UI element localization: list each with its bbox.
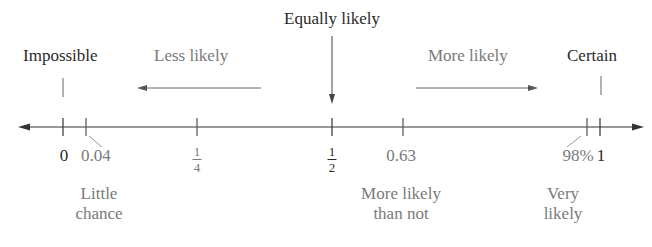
- tick-label-half: 1 2: [328, 145, 337, 174]
- more-likely-than-not-line1: More likely: [361, 184, 441, 203]
- fraction-denominator: 4: [194, 161, 201, 174]
- tick-label-quarter: 1 4: [193, 145, 202, 174]
- very-likely-line1: Very: [547, 184, 579, 203]
- impossible-label: Impossible: [23, 46, 98, 65]
- less-likely-label: Less likely: [154, 46, 228, 65]
- fraction-numerator: 1: [194, 145, 201, 158]
- left-arrow-icon: [137, 85, 147, 91]
- right-arrow-icon: [528, 85, 538, 91]
- tick-label-0.04: 0.04: [81, 146, 111, 165]
- little-chance-line1: Little: [81, 184, 118, 203]
- fraction-denominator: 2: [329, 161, 336, 174]
- tick-label-0.63: 0.63: [386, 146, 416, 165]
- axis-right-arrow-icon: [632, 124, 644, 131]
- tick-label-98pct: 98%: [562, 146, 593, 165]
- equally-likely-label: Equally likely: [284, 9, 380, 28]
- down-arrow-icon: [329, 94, 335, 104]
- more-likely-label: More likely: [428, 46, 508, 65]
- certain-label: Certain: [567, 46, 617, 65]
- tick-label-0: 0: [60, 146, 69, 165]
- axis-left-arrow-icon: [18, 124, 30, 131]
- very-likely-line2: likely: [544, 204, 583, 223]
- fraction-numerator: 1: [329, 145, 336, 158]
- tick-label-1: 1: [597, 146, 606, 165]
- more-likely-than-not-line2: than not: [373, 204, 428, 223]
- little-chance-line2: chance: [75, 204, 122, 223]
